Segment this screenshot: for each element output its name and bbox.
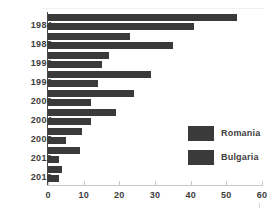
x-axis-tick-label: 10 [78, 190, 88, 200]
bar-bulgaria-2000 [48, 99, 91, 106]
x-axis-tick [84, 181, 85, 186]
x-axis-tick-label: 20 [114, 190, 124, 200]
legend-item-bulgaria: Bulgaria [188, 145, 260, 169]
bar-bulgaria-2016 [48, 175, 59, 182]
legend-label-romania: Romania [221, 128, 260, 138]
bar-romania-1996 [48, 71, 151, 78]
chart-legend: Romania Bulgaria [188, 121, 260, 169]
bar-bulgaria-2012 [48, 156, 59, 163]
x-axis-tick [226, 181, 227, 186]
corner-mark [259, 203, 260, 208]
x-axis-tick [119, 181, 120, 186]
x-axis-tick-label: 30 [150, 190, 160, 200]
x-axis-tick [191, 181, 192, 186]
bar-romania-2012 [48, 147, 80, 154]
bar-bulgaria-1992 [48, 61, 102, 68]
bar-chart: 0102030405060198419881992199620002004200… [0, 0, 276, 214]
legend-swatch-bulgaria [188, 150, 214, 165]
bar-romania-2016 [48, 166, 62, 173]
x-axis-tick-label: 40 [185, 190, 195, 200]
bar-bulgaria-1996 [48, 80, 98, 87]
bar-romania-2000 [48, 90, 134, 97]
bar-romania-1992 [48, 52, 109, 59]
bar-bulgaria-2008 [48, 137, 66, 144]
x-axis-tick-label: 60 [257, 190, 267, 200]
x-axis-tick [155, 181, 156, 186]
bar-bulgaria-2004 [48, 118, 91, 125]
x-axis-tick-label: 50 [221, 190, 231, 200]
bar-romania-1984 [48, 14, 237, 21]
legend-item-romania: Romania [188, 121, 260, 145]
x-axis-tick-label: 0 [45, 190, 50, 200]
legend-label-bulgaria: Bulgaria [221, 152, 259, 162]
bar-romania-2004 [48, 109, 116, 116]
bar-bulgaria-1988 [48, 42, 173, 49]
bar-bulgaria-1984 [48, 23, 194, 30]
bar-romania-1988 [48, 33, 130, 40]
legend-swatch-romania [188, 126, 214, 141]
x-axis-tick [262, 181, 263, 186]
plot-area: 0102030405060198419881992199620002004200… [0, 0, 276, 214]
bar-romania-2008 [48, 128, 82, 135]
